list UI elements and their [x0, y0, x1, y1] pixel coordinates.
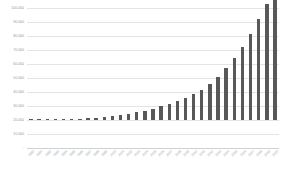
x-axis-tick-label: 2020: [272, 150, 280, 158]
bar: [176, 101, 179, 120]
y-axis-tick-label: 50,000: [0, 76, 24, 80]
bar: [184, 98, 187, 120]
y-axis-tick-label: 30,000: [0, 104, 24, 108]
x-axis-tick-label: 1991: [36, 150, 44, 158]
bar: [62, 119, 65, 120]
bar: [192, 94, 195, 120]
y-axis-tick-label: -: [0, 146, 24, 150]
bar: [46, 119, 49, 120]
bar: [233, 58, 236, 120]
bar: [111, 116, 114, 120]
y-axis-tick-label: 80,000: [0, 34, 24, 38]
bar: [216, 77, 219, 120]
bar: [78, 119, 81, 120]
y-axis-tick-label: 90,000: [0, 20, 24, 24]
bar: [143, 111, 146, 120]
bar: [159, 106, 162, 120]
bar: [168, 104, 171, 120]
plot-area: 1990199119921993199419951996199719981999…: [27, 0, 279, 178]
bar: [241, 47, 244, 120]
y-axis-tick-label: 40,000: [0, 90, 24, 94]
bar: [127, 114, 130, 120]
bar: [29, 119, 32, 120]
y-axis-tick-label: 10,000: [0, 132, 24, 136]
x-axis: 1990199119921993199419951996199719981999…: [27, 149, 279, 178]
bar: [103, 117, 106, 120]
bar: [86, 118, 89, 120]
bar: [151, 109, 154, 120]
bar: [54, 119, 57, 120]
y-axis-tick-label: 60,000: [0, 62, 24, 66]
y-axis: 100,00090,00080,00070,00060,00050,00040,…: [0, 0, 26, 178]
bar: [37, 119, 40, 120]
bar-series: [27, 0, 279, 149]
bar: [119, 115, 122, 120]
y-axis-tick-label: 20,000: [0, 118, 24, 122]
bar: [94, 118, 97, 120]
bar: [224, 68, 227, 120]
bar: [257, 19, 260, 120]
bar: [265, 4, 268, 120]
x-axis-tick-label: 1999: [101, 150, 109, 158]
bar: [70, 119, 73, 120]
bar: [208, 84, 211, 120]
bar: [249, 34, 252, 120]
y-axis-tick-label: 100,000: [0, 6, 24, 10]
y-axis-tick-label: 70,000: [0, 48, 24, 52]
bar: [135, 112, 138, 120]
bar-chart: 100,00090,00080,00070,00060,00050,00040,…: [0, 0, 282, 178]
bar: [200, 90, 203, 120]
bar: [273, 0, 276, 120]
